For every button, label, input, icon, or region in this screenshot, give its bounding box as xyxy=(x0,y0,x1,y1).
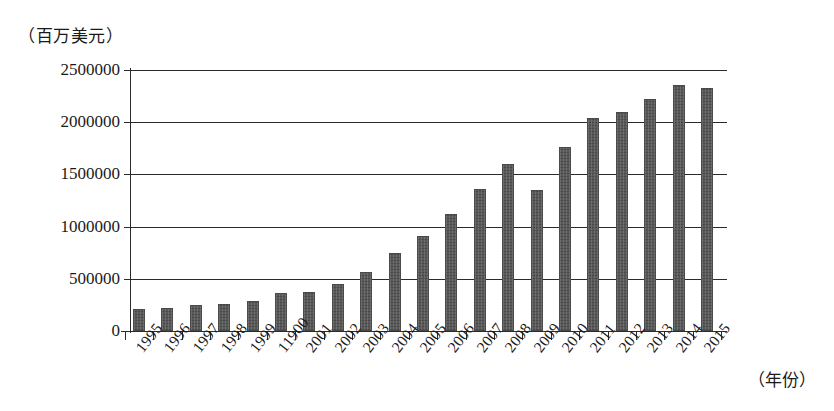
bar xyxy=(673,85,685,331)
gridline xyxy=(130,227,727,228)
x-tick-mark xyxy=(125,331,126,340)
bar xyxy=(332,284,344,331)
bar-chart-figure: （百万美元） 050000010000001500000200000025000… xyxy=(0,0,834,411)
bar xyxy=(587,118,599,331)
gridline xyxy=(130,122,727,123)
bar xyxy=(531,190,543,331)
bar xyxy=(190,305,202,331)
y-axis-unit-label: （百万美元） xyxy=(18,22,123,47)
bar xyxy=(417,236,429,331)
bar xyxy=(502,164,514,331)
bar xyxy=(701,88,713,331)
y-tick-label: 2000000 xyxy=(61,113,121,130)
bar xyxy=(474,189,486,332)
bar xyxy=(275,293,287,331)
bar xyxy=(218,304,230,331)
bar xyxy=(616,112,628,331)
y-tick-mark xyxy=(124,122,136,123)
y-tick-label: 1500000 xyxy=(61,166,121,183)
x-axis-unit-label: （年份） xyxy=(748,366,816,391)
bar xyxy=(133,309,145,331)
plot-area: 05000001000000150000020000002500000 1995… xyxy=(130,70,727,331)
y-tick-mark xyxy=(124,70,136,71)
y-tick-mark xyxy=(124,227,136,228)
gridline xyxy=(130,174,727,175)
bar xyxy=(445,214,457,331)
bar xyxy=(644,99,656,331)
y-axis-line xyxy=(130,68,131,333)
y-tick-label: 0 xyxy=(112,322,121,339)
y-tick-label: 2500000 xyxy=(61,61,121,78)
y-tick-label: 500000 xyxy=(69,270,120,287)
y-tick-mark xyxy=(124,279,136,280)
gridline xyxy=(130,70,727,71)
y-tick-mark xyxy=(124,174,136,175)
y-tick-label: 1000000 xyxy=(61,218,121,235)
bar xyxy=(389,253,401,331)
bar xyxy=(360,272,372,332)
bar xyxy=(247,301,259,331)
bar xyxy=(559,147,571,331)
